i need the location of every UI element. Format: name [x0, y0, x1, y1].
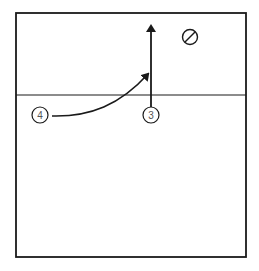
- play-diagram: 4 3: [0, 0, 259, 271]
- player-3-label: 3: [148, 110, 154, 121]
- player-4: 4: [32, 107, 48, 123]
- player-3: 3: [143, 107, 159, 123]
- null-marker-icon: [183, 30, 198, 45]
- court-boundary: [16, 13, 246, 257]
- player-4-label: 4: [37, 110, 43, 121]
